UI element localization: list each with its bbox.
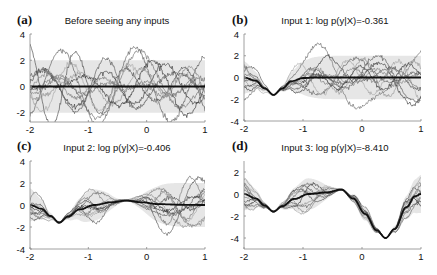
x-tick-label: 1 xyxy=(418,251,423,262)
panel-label: (c) xyxy=(17,138,31,153)
y-tick-label: -2 xyxy=(17,107,25,118)
panel-label: (a) xyxy=(17,12,32,27)
sample-paths xyxy=(244,43,421,109)
y-tick-label: 2 xyxy=(234,50,239,61)
y-tick-label: 2 xyxy=(20,55,25,66)
y-tick-label: 0 xyxy=(234,72,239,83)
y-tick-label: -2 xyxy=(17,222,25,233)
y-tick-label: -2 xyxy=(231,211,239,222)
x-tick-label: 0 xyxy=(144,251,149,262)
plot-area: -4-202-2-101 xyxy=(231,161,424,262)
x-tick-label: 0 xyxy=(144,124,149,135)
y-tick-label: -4 xyxy=(231,116,239,127)
x-tick-label: -2 xyxy=(240,123,248,134)
figure: (a) Before seeing any inputs -2024-2-101… xyxy=(0,0,437,275)
x-tick-label: -2 xyxy=(26,251,34,262)
y-tick-label: 4 xyxy=(20,156,25,167)
panel-label: (d) xyxy=(232,138,248,153)
y-tick-label: 0 xyxy=(20,81,25,92)
x-tick-label: 0 xyxy=(359,251,364,262)
y-tick-label: 2 xyxy=(20,178,25,189)
panel-title: Input 1: log p(y|X)=-0.361 xyxy=(281,15,388,26)
y-tick-label: 0 xyxy=(234,189,239,200)
y-tick-label: -2 xyxy=(231,94,239,105)
plot-area: -2024-2-101 xyxy=(17,29,208,136)
y-tick-label: -4 xyxy=(231,233,239,244)
x-tick-label: 0 xyxy=(359,123,364,134)
x-tick-label: 1 xyxy=(418,123,423,134)
plot-area: -4-2024-2-101 xyxy=(231,29,424,135)
x-tick-label: 1 xyxy=(202,251,207,262)
x-tick-label: -2 xyxy=(240,251,248,262)
panel-c: (c) Input 2: log p(y|X)=-0.406 -4-2024-2… xyxy=(17,138,208,262)
y-tick-label: 0 xyxy=(20,200,25,211)
y-tick-label: 4 xyxy=(234,29,239,40)
y-tick-label: 4 xyxy=(20,29,25,40)
x-tick-label: -1 xyxy=(84,251,92,262)
x-tick-label: -2 xyxy=(26,124,34,135)
panel-title: Before seeing any inputs xyxy=(65,15,170,26)
x-tick-label: -1 xyxy=(299,123,307,134)
panel-d: (d) Input 3: log p(y|X)=-8.410 -4-202-2-… xyxy=(231,138,424,262)
plot-area: -4-2024-2-101 xyxy=(17,156,208,263)
panel-b: (b) Input 1: log p(y|X)=-0.361 -4-2024-2… xyxy=(231,12,424,134)
panel-title: Input 2: log p(y|X)=-0.406 xyxy=(63,142,170,153)
y-tick-label: 2 xyxy=(234,167,239,178)
panel-a: (a) Before seeing any inputs -2024-2-101 xyxy=(17,12,208,135)
panel-title: Input 3: log p(y|X)=-8.410 xyxy=(281,142,388,153)
y-tick-label: -4 xyxy=(17,244,25,255)
x-tick-label: -1 xyxy=(299,251,307,262)
x-tick-label: -1 xyxy=(84,124,92,135)
panel-label: (b) xyxy=(232,12,248,27)
x-tick-label: 1 xyxy=(202,124,207,135)
